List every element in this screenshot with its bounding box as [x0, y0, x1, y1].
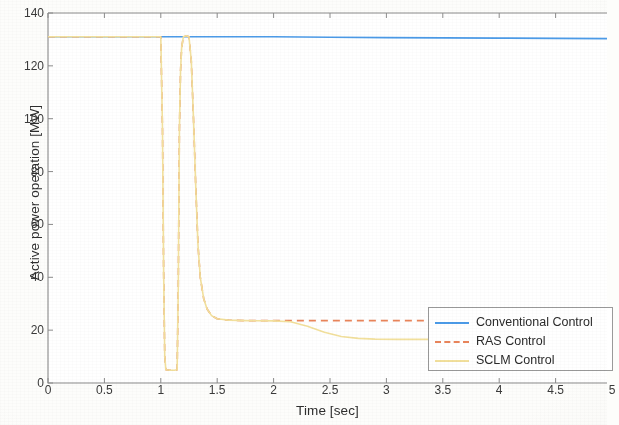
chart-legend: Conventional ControlRAS ControlSCLM Cont… — [428, 307, 613, 371]
legend-label: Conventional Control — [476, 315, 593, 329]
x-tick-label: 4.5 — [536, 383, 576, 397]
legend-label: RAS Control — [476, 334, 545, 348]
x-tick-label: 2.5 — [310, 383, 350, 397]
legend-item: RAS Control — [429, 331, 612, 350]
x-axis-label: Time [sec] — [48, 403, 607, 418]
legend-item: SCLM Control — [429, 350, 612, 369]
legend-line-swatch — [435, 354, 469, 366]
legend-line-swatch — [435, 316, 469, 328]
x-tick-label: 3 — [366, 383, 406, 397]
x-tick-label: 0 — [28, 383, 68, 397]
x-axis-tick-labels: 00.511.522.533.544.55 — [0, 383, 607, 403]
x-tick-label: 3.5 — [423, 383, 463, 397]
y-tick-label: 20 — [10, 323, 44, 337]
x-tick-label: 1 — [141, 383, 181, 397]
x-tick-label: 2 — [254, 383, 294, 397]
x-tick-label: 5 — [592, 383, 619, 397]
legend-item: Conventional Control — [429, 312, 612, 331]
legend-line-swatch — [435, 335, 469, 347]
x-tick-label: 4 — [479, 383, 519, 397]
y-axis-label: Active power operation [MW] — [27, 63, 42, 323]
x-tick-label: 1.5 — [197, 383, 237, 397]
legend-label: SCLM Control — [476, 353, 555, 367]
x-tick-label: 0.5 — [84, 383, 124, 397]
y-tick-label: 140 — [10, 6, 44, 20]
